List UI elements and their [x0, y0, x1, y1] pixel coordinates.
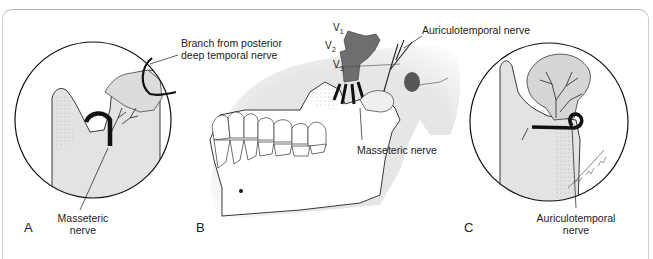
label-branch-deep-temporal: Branch from posterior deep temporal nerv… — [181, 37, 282, 61]
label-masseteric-a-line1: Masseteric — [50, 212, 116, 224]
panel-letter-b: B — [196, 220, 205, 235]
label-auriculotemporal-c-line2: nerve — [528, 224, 624, 236]
panel-c-illustration — [470, 43, 628, 208]
label-branch-line2: deep temporal nerve — [181, 49, 282, 61]
label-masseteric-nerve-b: Masseteric nerve — [357, 144, 437, 156]
label-auriculotemporal-c-line1: Auriculotemporal — [528, 212, 624, 224]
panel-letter-c: C — [464, 220, 473, 235]
label-v3: V3 — [333, 59, 344, 72]
label-v2: V2 — [325, 40, 336, 53]
label-v1: V1 — [333, 22, 344, 35]
label-masseteric-nerve-a: Masseteric nerve — [50, 212, 116, 236]
label-branch-line1: Branch from posterior — [181, 37, 282, 49]
panel-letter-a: A — [24, 220, 33, 235]
label-auriculotemporal-nerve-b: Auriculotemporal nerve — [422, 24, 530, 36]
label-masseteric-a-line2: nerve — [50, 224, 116, 236]
label-auriculotemporal-nerve-c: Auriculotemporal nerve — [528, 212, 624, 236]
panel-a-illustration — [15, 42, 178, 210]
